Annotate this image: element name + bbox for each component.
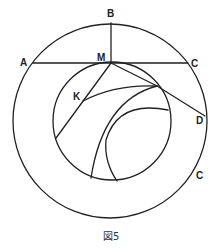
label-M: M bbox=[97, 52, 105, 63]
geometry-figure: B A M C K D C 図5 bbox=[0, 0, 214, 252]
label-K: K bbox=[73, 91, 81, 102]
segment-PD bbox=[157, 86, 205, 116]
label-B: B bbox=[107, 8, 114, 19]
label-C-top: C bbox=[191, 58, 198, 69]
inner-circle bbox=[53, 62, 171, 180]
label-A: A bbox=[20, 57, 27, 68]
figure-caption: 図5 bbox=[103, 231, 119, 242]
label-D: D bbox=[196, 115, 203, 126]
arc-right-to-bottom bbox=[106, 108, 168, 181]
arc-K-to-P bbox=[83, 86, 157, 101]
arc-P-to-bottom-left bbox=[91, 86, 157, 178]
label-C-bottom: C bbox=[196, 170, 203, 181]
